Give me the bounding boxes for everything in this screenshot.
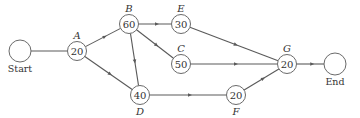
edge-F-G xyxy=(244,69,279,90)
node-c: 50C xyxy=(172,43,191,74)
node-value: 40 xyxy=(134,90,147,101)
node-b: 60B xyxy=(120,3,139,34)
edge-B-D xyxy=(130,33,138,85)
edge-A-B xyxy=(85,28,120,46)
node-label: E xyxy=(176,3,185,14)
arrow-icon xyxy=(310,62,314,66)
node-label: F xyxy=(232,106,241,117)
node-value: 20 xyxy=(230,90,243,101)
node-label: A xyxy=(72,30,80,41)
edge-G-end xyxy=(297,62,325,66)
edge-E-G xyxy=(190,27,278,60)
node-value: 30 xyxy=(175,19,188,30)
node-value: 50 xyxy=(175,59,188,70)
edge-D-F xyxy=(150,93,227,97)
node-e: 30E xyxy=(172,3,191,34)
node-value: 60 xyxy=(123,19,136,30)
node-d: 40D xyxy=(131,86,150,118)
edge-A-D xyxy=(85,56,132,89)
node-start: Start xyxy=(8,40,33,74)
node-label: Start xyxy=(8,63,33,74)
arrow-icon xyxy=(188,93,192,97)
node-label: B xyxy=(124,3,132,14)
arrow-icon xyxy=(233,42,237,45)
edge-C-G xyxy=(191,62,278,66)
edge-B-E xyxy=(139,22,172,26)
arrow-icon xyxy=(155,22,159,26)
node-end: End xyxy=(324,53,346,87)
node-circle xyxy=(9,40,31,62)
node-g: 20G xyxy=(278,43,297,74)
node-a: 20A xyxy=(68,30,87,61)
nodes-layer: Start20A60B30E50C40D20F20GEnd xyxy=(8,3,346,117)
node-label: C xyxy=(177,43,185,54)
node-label: D xyxy=(135,106,144,117)
node-f: 20F xyxy=(227,86,246,118)
node-circle xyxy=(324,53,346,75)
edge-B-C xyxy=(137,30,174,58)
node-label: End xyxy=(325,76,344,87)
node-label: G xyxy=(283,43,291,54)
activity-network-diagram: Start20A60B30E50C40D20F20GEnd xyxy=(0,0,360,117)
arrow-icon xyxy=(234,62,238,66)
node-value: 20 xyxy=(71,46,84,57)
node-value: 20 xyxy=(281,59,294,70)
